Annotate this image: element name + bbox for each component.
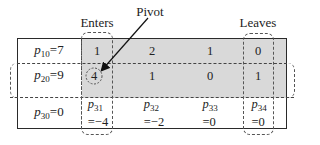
cell-r1-c4: 0 [255,45,261,58]
cell-r3-c4: p34 =0 [251,97,266,129]
pivot-cell: 4 [91,70,97,83]
cell-r1-c2: 2 [149,45,155,58]
cell-r3-c1: p31 =−4 [88,97,108,129]
cell-r2-c2: 1 [149,70,155,83]
cell-r2-c3: 0 [207,70,213,83]
cell-r1-c1: 1 [94,45,100,58]
cell-r2-c4: 1 [255,70,261,83]
cell-r3-c2: p32 =−2 [144,97,164,129]
row-label-1: p10=7 [34,43,63,59]
row-label-2: p20=9 [34,68,63,84]
cell-r1-c3: 1 [207,45,213,58]
cell-r3-c3: p33 =0 [202,97,217,129]
row-label-3: p30=0 [34,105,63,121]
